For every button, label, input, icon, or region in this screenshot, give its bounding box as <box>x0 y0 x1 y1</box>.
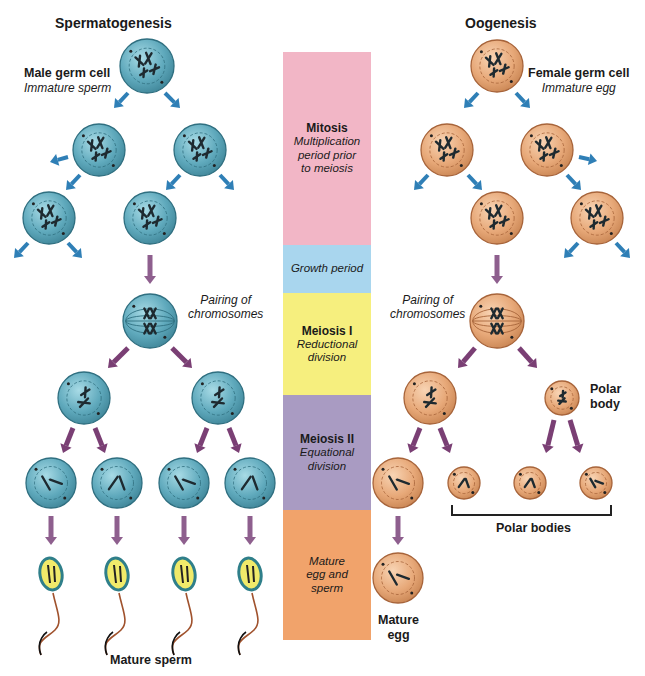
sperm <box>236 556 263 655</box>
male-cell <box>123 294 177 348</box>
male-cell <box>159 458 209 508</box>
arrow <box>172 348 192 368</box>
arrow <box>407 428 420 453</box>
arrow <box>570 420 583 453</box>
arrow <box>66 175 80 190</box>
female-cell <box>448 467 480 499</box>
arrow <box>178 516 190 545</box>
diagram-artwork <box>0 0 645 676</box>
female-cell <box>521 124 573 176</box>
arrow <box>114 93 128 108</box>
male-cell <box>192 372 244 424</box>
arrow <box>14 243 28 258</box>
arrow <box>50 154 68 166</box>
arrow <box>95 428 108 453</box>
male-cell <box>92 458 142 508</box>
arrow <box>45 516 57 545</box>
female-cell <box>373 458 423 508</box>
arrow <box>166 175 180 190</box>
arrow <box>220 175 234 190</box>
arrow <box>68 243 82 258</box>
arrow <box>111 516 123 545</box>
arrow <box>244 516 256 545</box>
arrow <box>567 175 581 190</box>
arrow <box>491 255 503 284</box>
arrow <box>519 348 537 368</box>
male-cell <box>174 124 226 176</box>
arrow <box>414 175 428 190</box>
arrow <box>194 428 207 453</box>
arrow <box>542 420 554 453</box>
female-cell <box>580 467 612 499</box>
arrow <box>579 153 597 165</box>
female-cell <box>514 467 546 499</box>
arrow <box>458 348 475 368</box>
arrow <box>516 93 530 108</box>
male-cell <box>120 39 174 93</box>
sperm <box>170 556 197 655</box>
arrow <box>229 428 242 453</box>
arrow <box>144 255 156 284</box>
arrow <box>60 428 73 453</box>
male-cell <box>73 124 125 176</box>
female-cell <box>373 553 423 603</box>
female-cell <box>421 124 473 176</box>
arrow <box>392 516 404 545</box>
male-cell <box>26 458 76 508</box>
male-cell <box>124 192 176 244</box>
arrow <box>440 428 453 453</box>
female-cell <box>404 372 456 424</box>
arrow <box>464 93 478 108</box>
arrow <box>108 348 128 368</box>
polar-bodies-bracket <box>452 505 611 515</box>
male-cell <box>58 372 110 424</box>
sperm <box>37 556 64 655</box>
sperm <box>103 556 130 655</box>
arrow <box>165 93 180 108</box>
female-cell <box>545 381 579 415</box>
male-cell <box>225 458 275 508</box>
female-cell <box>471 192 523 244</box>
female-cell <box>471 40 523 92</box>
male-cell <box>23 192 75 244</box>
female-cell <box>571 192 623 244</box>
female-cell <box>470 294 524 348</box>
arrow <box>468 175 482 190</box>
arrow <box>616 243 630 258</box>
arrow <box>564 243 578 258</box>
